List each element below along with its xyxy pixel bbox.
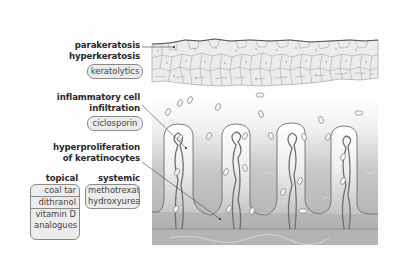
systemic-item: hydroxyurea [86,196,139,207]
topical-item: vitamin D [31,209,79,220]
label-topical: topical [46,173,78,184]
label-of-keratinocytes: of keratinocytes [63,153,140,164]
psoriasis-diagram: parakeratosis hyperkeratosis keratolytic… [0,0,402,267]
epidermis-layer [152,39,378,86]
label-hyperkeratosis: hyperkeratosis [69,51,140,62]
systemic-treatments-box: methotrexate hydroxyurea [85,184,140,209]
topical-item: coal tar [31,185,79,197]
label-systemic: systemic [98,173,140,184]
topical-item: analogues [31,220,79,231]
label-hyperproliferation: hyperproliferation [53,142,140,153]
treatment-ciclosporin: ciclosporin [87,116,143,131]
label-infiltration: infiltration [89,103,140,114]
label-parakeratosis: parakeratosis [75,40,140,51]
systemic-item: methotrexate [86,185,139,196]
label-inflammatory-cell: inflammatory cell [57,92,140,103]
topical-treatments-box: coal tar dithranol vitamin D analogues [30,184,80,240]
treatment-keratolytics: keratolytics [87,64,143,79]
topical-item: dithranol [31,197,79,209]
